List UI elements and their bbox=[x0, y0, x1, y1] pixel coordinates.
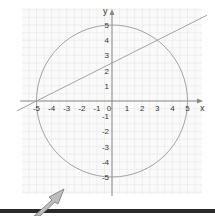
x-tick-label: -1 bbox=[93, 104, 101, 113]
x-tick-label: 5 bbox=[185, 104, 190, 113]
y-tick-label: 3 bbox=[105, 51, 110, 60]
y-tick-label: 1 bbox=[105, 82, 110, 91]
y-tick-label: -1 bbox=[102, 112, 110, 121]
x-tick-label: 4 bbox=[170, 104, 175, 113]
y-tick-label: -3 bbox=[102, 143, 110, 152]
graph: -5-4-3-2-101234554321-1-2-3-4-5 x y bbox=[0, 0, 215, 216]
x-tick-label: -3 bbox=[63, 104, 71, 113]
y-tick-label: -5 bbox=[102, 173, 110, 182]
x-tick-label: -2 bbox=[78, 104, 86, 113]
y-axis-label: y bbox=[103, 6, 108, 16]
x-tick-label: -4 bbox=[48, 104, 56, 113]
y-tick-label: -2 bbox=[102, 127, 110, 136]
x-tick-label: 3 bbox=[155, 104, 160, 113]
y-tick-label: 4 bbox=[105, 36, 110, 45]
y-tick-label: -4 bbox=[102, 158, 110, 167]
x-tick-label: -5 bbox=[33, 104, 41, 113]
y-tick-label: 2 bbox=[105, 67, 110, 76]
dark-bar bbox=[0, 209, 215, 213]
x-axis-label: x bbox=[200, 103, 205, 113]
x-tick-label: 2 bbox=[140, 104, 145, 113]
x-tick-label: 1 bbox=[125, 104, 130, 113]
y-tick-label: 5 bbox=[105, 21, 110, 30]
